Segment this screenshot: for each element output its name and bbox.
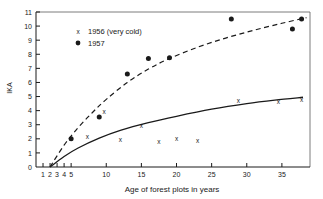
data-point-1957-4 (167, 55, 172, 60)
y-tick-label-6: 6 (28, 79, 32, 86)
y-tick-label-8: 8 (28, 51, 32, 58)
data-point-1957-2 (125, 72, 130, 77)
x-tick-label-35: 35 (278, 171, 286, 178)
data-point-1957-7 (299, 17, 304, 22)
y-axis-label: IKA (6, 82, 13, 94)
chart-figure: 01234567891011 12345101520253035 xxxxxxx… (0, 0, 323, 199)
y-tick-label-11: 11 (25, 9, 32, 16)
y-tick-label-0: 0 (28, 164, 32, 171)
data-point-1957-3 (146, 56, 151, 61)
y-tick-label-2: 2 (28, 135, 32, 142)
y-tick-label-9: 9 (28, 37, 32, 44)
legend-label-1956: 1956 (very cold) (88, 27, 142, 36)
x-tick-label-2: 2 (48, 171, 52, 178)
x-tick-label-4: 4 (62, 171, 66, 178)
x-tick-label-1: 1 (41, 171, 45, 178)
x-tick-label-5: 5 (69, 171, 73, 178)
chart-canvas: 01234567891011 12345101520253035 xxxxxxx… (0, 0, 323, 199)
data-point-1957-6 (290, 26, 295, 31)
y-tick-label-3: 3 (28, 121, 32, 128)
data-point-1957-5 (229, 17, 234, 22)
data-point-1957-1 (97, 114, 102, 119)
y-tick-label-10: 10 (24, 23, 32, 30)
x-tick-label-10: 10 (102, 171, 110, 178)
y-tick-label-7: 7 (28, 65, 32, 72)
x-tick-label-30: 30 (243, 171, 251, 178)
x-tick-label-3: 3 (55, 171, 59, 178)
x-tick-label-15: 15 (137, 171, 145, 178)
x-tick-label-25: 25 (208, 171, 216, 178)
y-tick-label-1: 1 (28, 150, 32, 157)
x-axis-label: Age of forest plots in years (125, 185, 220, 194)
y-tick-label-4: 4 (28, 107, 32, 114)
x-tick-label-20: 20 (173, 171, 181, 178)
legend-marker-1957 (76, 41, 81, 46)
data-point-1957-0 (69, 136, 74, 141)
legend-label-1957: 1957 (88, 39, 105, 48)
y-tick-label-5: 5 (28, 93, 32, 100)
